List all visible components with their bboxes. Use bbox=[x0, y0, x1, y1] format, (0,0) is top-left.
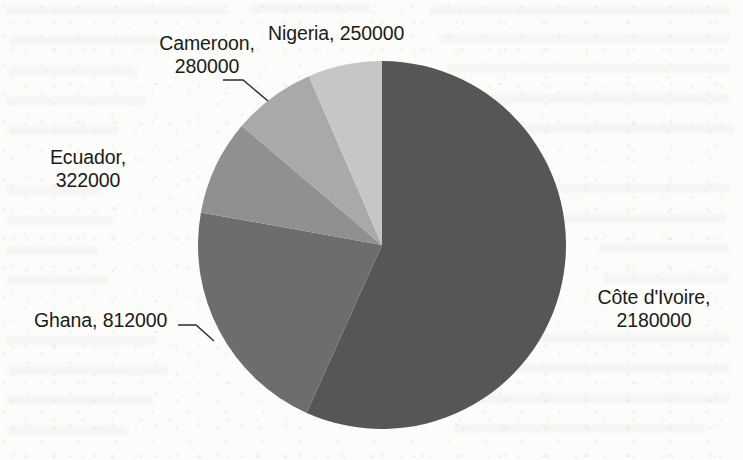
pie-label-ghana: Ghana, 812000 bbox=[34, 309, 167, 332]
pie-chart-figure: Nigeria, 250000 Cameroon, 280000 Ecuador… bbox=[0, 0, 743, 460]
pie-slice-group bbox=[198, 61, 566, 429]
pie-label-cote-divoire: Côte d'Ivoire, 2180000 bbox=[578, 286, 730, 332]
chart-plot-area: Nigeria, 250000 Cameroon, 280000 Ecuador… bbox=[0, 0, 743, 460]
pie-label-ecuador: Ecuador, 322000 bbox=[24, 146, 152, 192]
pie-label-cote-divoire-line1: Côte d'Ivoire, bbox=[598, 286, 711, 308]
pie-label-ecuador-line1: Ecuador, bbox=[50, 146, 126, 168]
pie-label-nigeria-text: Nigeria, 250000 bbox=[268, 22, 404, 44]
pie-label-cameroon-line2: 280000 bbox=[140, 55, 274, 78]
pie-label-nigeria: Nigeria, 250000 bbox=[268, 22, 404, 45]
pie-chart-svg bbox=[0, 0, 743, 460]
leader-line-cameroon bbox=[223, 80, 268, 101]
pie-label-ecuador-line2: 322000 bbox=[24, 169, 152, 192]
pie-label-ghana-text: Ghana, 812000 bbox=[34, 309, 167, 331]
leader-line-ghana bbox=[178, 325, 214, 341]
pie-label-cote-divoire-line2: 2180000 bbox=[578, 309, 730, 332]
pie-label-cameroon: Cameroon, 280000 bbox=[140, 32, 274, 78]
pie-label-cameroon-line1: Cameroon, bbox=[159, 32, 255, 54]
